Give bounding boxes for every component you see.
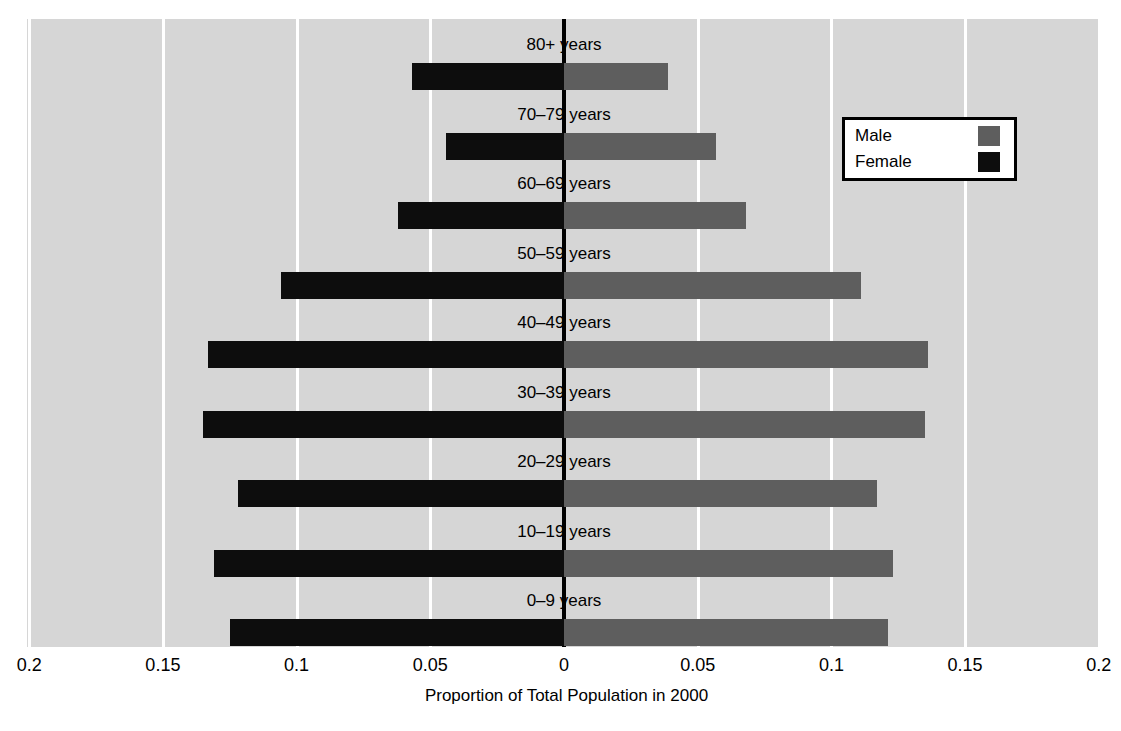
bar-male <box>564 133 716 160</box>
age-group-label: 10–19 years <box>27 516 1098 548</box>
bar-female <box>412 63 564 90</box>
x-axis-title: Proportion of Total Population in 2000 <box>0 686 1121 706</box>
bar-male <box>564 63 668 90</box>
x-tick-label: 0.1 <box>819 655 844 676</box>
age-group-label: 20–29 years <box>27 446 1098 478</box>
x-tick-label: 0.2 <box>1086 655 1111 676</box>
age-group-label: 80+ years <box>27 29 1098 61</box>
bar-female <box>398 202 564 229</box>
bar-row: 80+ years <box>27 29 1098 99</box>
bar-male <box>564 550 893 577</box>
legend-label-female: Female <box>855 152 912 172</box>
legend-item-female: Female <box>855 149 1000 175</box>
bar-male <box>564 619 888 646</box>
x-tick-label: 0.15 <box>145 655 180 676</box>
bar-male <box>564 272 861 299</box>
age-group-label: 0–9 years <box>27 585 1098 617</box>
legend-item-male: Male <box>855 123 1000 149</box>
x-tick-label: 0 <box>559 655 569 676</box>
population-pyramid-chart: 80+ years70–79 years60–69 years50–59 yea… <box>0 0 1121 731</box>
age-group-label: 40–49 years <box>27 307 1098 339</box>
bar-female <box>203 411 564 438</box>
x-tick-label: 0.15 <box>948 655 983 676</box>
age-group-label: 30–39 years <box>27 377 1098 409</box>
bar-female <box>446 133 564 160</box>
x-axis-title-text: Proportion of Total Population in 2000 <box>425 686 708 706</box>
x-tick-label: 0.05 <box>680 655 715 676</box>
bar-male <box>564 480 877 507</box>
bar-female <box>238 480 564 507</box>
bar-row: 0–9 years <box>27 585 1098 647</box>
x-tick-label: 0.05 <box>413 655 448 676</box>
bar-row: 50–59 years <box>27 238 1098 308</box>
bar-female <box>208 341 564 368</box>
chart-legend: Male Female <box>842 117 1017 181</box>
x-tick-label: 0.2 <box>17 655 42 676</box>
bar-male <box>564 341 928 368</box>
bar-female <box>230 619 564 646</box>
bar-row: 10–19 years <box>27 516 1098 586</box>
bar-row: 30–39 years <box>27 377 1098 447</box>
bar-female <box>281 272 564 299</box>
x-tick-label: 0.1 <box>284 655 309 676</box>
bar-male <box>564 202 746 229</box>
bar-female <box>214 550 564 577</box>
legend-label-male: Male <box>855 126 892 146</box>
legend-swatch-female <box>978 152 1000 172</box>
age-group-label: 50–59 years <box>27 238 1098 270</box>
x-axis-tick-labels: 0.20.150.10.0500.050.10.150.2 <box>0 655 1121 681</box>
bar-row: 20–29 years <box>27 446 1098 516</box>
legend-swatch-male <box>978 126 1000 146</box>
bar-male <box>564 411 925 438</box>
plot-area: 80+ years70–79 years60–69 years50–59 yea… <box>27 19 1098 647</box>
bar-row: 40–49 years <box>27 307 1098 377</box>
